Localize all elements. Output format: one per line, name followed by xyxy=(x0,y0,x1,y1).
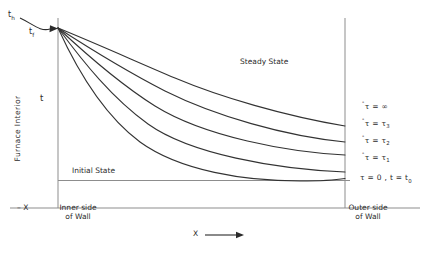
tau-0-subscript: 0 xyxy=(408,178,412,184)
curve-label-tau-2: °τ = τ2 xyxy=(362,135,390,146)
furnace-wall-temperature-diagram: th tf Steady State Initial State Furnace… xyxy=(0,0,427,253)
tau-2-equals: = xyxy=(372,136,379,145)
curve-label-tau-0: τ = 0 , t = t0 xyxy=(360,173,412,184)
curve-label-tau-1: °τ = τ1 xyxy=(362,152,390,163)
tau-2-symbol: τ xyxy=(365,136,370,145)
hot-gas-temperature-label: th xyxy=(8,10,15,21)
inner-wall-line1: Inner side xyxy=(59,203,96,212)
wall-face-temperature-label: tf xyxy=(29,27,34,38)
inner-wall-line2: of Wall xyxy=(65,212,90,221)
initial-state-label: Initial State xyxy=(72,166,115,175)
inner-wall-caption: Inner side of Wall xyxy=(40,203,116,221)
curve-tau-0 xyxy=(58,28,345,181)
wall-face-subscript: f xyxy=(32,32,34,38)
curve-tau-infinity xyxy=(58,28,345,126)
tau-infinity-value: ∞ xyxy=(381,102,388,111)
outer-wall-caption: Outer side of Wall xyxy=(330,203,406,221)
curve-tau-1 xyxy=(58,28,345,172)
tau-3-equals: = xyxy=(372,119,379,128)
annotation-arrow-curve xyxy=(20,18,50,30)
tau-1-symbol: τ xyxy=(365,153,370,162)
x-axis-symbol: X xyxy=(193,229,198,238)
y-axis-title: Furnace Interior xyxy=(13,84,22,174)
tau-2-subscript: 2 xyxy=(386,140,390,146)
tau-1-subscript: 1 xyxy=(386,157,390,163)
x-direction-arrow-head xyxy=(236,232,244,238)
negative-x-tick-label: – X xyxy=(17,203,28,212)
curve-tau-3 xyxy=(58,28,345,142)
tau-infinity-symbol: τ xyxy=(365,102,370,111)
curve-label-tau-infinity: °τ = ∞ xyxy=(362,101,388,111)
tau-3-symbol: τ xyxy=(365,119,370,128)
tau-3-subscript: 3 xyxy=(386,123,390,129)
annotation-arrow-head xyxy=(50,25,59,32)
hot-gas-subscript: h xyxy=(11,15,15,21)
curve-label-tau-3: °τ = τ3 xyxy=(362,118,390,129)
outer-wall-line2: of Wall xyxy=(355,212,380,221)
tau-0-text: τ = 0 , t = t xyxy=(360,173,408,182)
tau-1-equals: = xyxy=(372,153,379,162)
outer-wall-line1: Outer side xyxy=(348,203,387,212)
y-axis-symbol: t xyxy=(40,93,43,103)
tau-infinity-equals: = xyxy=(372,102,379,111)
steady-state-label: Steady State xyxy=(240,57,288,66)
